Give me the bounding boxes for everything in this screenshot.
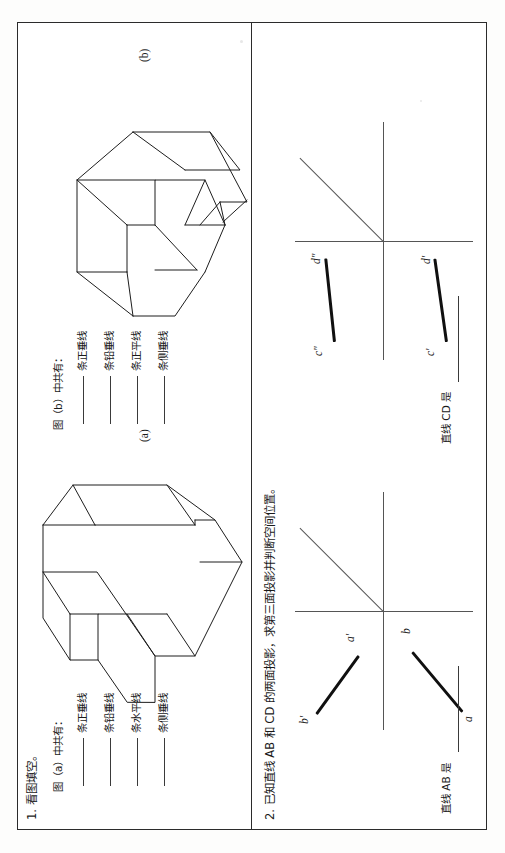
label-c-double-prime: c" (313, 346, 325, 356)
problem-2-number: 2. 已知直线 AB 和 CD 的两面投影，求第三面投影并判断空间位置。 (265, 483, 277, 820)
ab-segment-h-projection (411, 651, 463, 712)
blank-line-b-4[interactable] (164, 376, 165, 424)
blank-unit-b-2: 条铅垂线 (104, 331, 115, 371)
blank-line-a-3[interactable] (137, 738, 138, 786)
label-b-prime: b' (299, 716, 311, 724)
blank-unit-b-3: 条正平线 (131, 331, 142, 371)
problem-1-number: 1. 看图填空。 (27, 750, 39, 820)
ab-axis-vertical (295, 611, 473, 612)
answer-prompt-ab: 直线 AB 是 (441, 763, 452, 814)
scan-speck (240, 40, 243, 43)
blank-line-b-3[interactable] (137, 376, 138, 424)
logical-page: 1. 看图填空。 图（a）中共有： 条正垂线 条铅垂线 条水平线 条侧垂线 图（… (17, 22, 487, 830)
label-a-prime: a' (345, 634, 357, 642)
figure-a-caption: (a) (139, 429, 151, 442)
cd-axis-45-degree (300, 158, 384, 242)
scan-speck (420, 100, 422, 102)
label-d-double-prime: d" (311, 253, 323, 264)
isometric-figure-b (35, 80, 250, 330)
answer-rule-cd[interactable] (458, 296, 459, 382)
cd-segment-v-projection (324, 258, 335, 342)
blank-line-b-1[interactable] (83, 376, 84, 424)
blank-line-a-2[interactable] (110, 738, 111, 786)
blank-line-a-1[interactable] (83, 738, 84, 786)
group-a-heading: 图（a）中共有： (53, 716, 64, 792)
blank-line-b-2[interactable] (110, 376, 111, 424)
answer-prompt-cd: 直线 CD 是 (441, 392, 452, 444)
scan-speck (58, 770, 60, 772)
label-b: b (401, 628, 413, 634)
cd-segment-h-projection (433, 259, 447, 343)
label-d-prime: d' (421, 256, 433, 264)
figure-b-caption: (b) (139, 49, 151, 62)
cd-axis-vertical (295, 241, 473, 242)
projection-panel-ab: b' a' a b (293, 410, 483, 730)
answer-rule-ab[interactable] (458, 666, 459, 752)
blank-unit-b-1: 条正垂线 (77, 331, 88, 371)
worksheet-page: 1. 看图填空。 图（a）中共有： 条正垂线 条铅垂线 条水平线 条侧垂线 图（… (0, 0, 505, 853)
ab-axis-45-degree (300, 528, 384, 612)
page-content-rotator: 1. 看图填空。 图（a）中共有： 条正垂线 条铅垂线 条水平线 条侧垂线 图（… (17, 22, 487, 830)
ab-segment-v-projection (315, 655, 359, 715)
blank-unit-b-4: 条侧垂线 (158, 331, 169, 371)
group-b-heading: 图（b）中共有： (53, 353, 64, 430)
isometric-figure-a (35, 460, 250, 710)
section-divider (251, 22, 252, 830)
projection-panel-cd: d" c" d' c' (293, 40, 483, 360)
blank-line-a-4[interactable] (164, 738, 165, 786)
label-a: a (463, 716, 475, 722)
label-c-prime: c' (425, 348, 437, 356)
